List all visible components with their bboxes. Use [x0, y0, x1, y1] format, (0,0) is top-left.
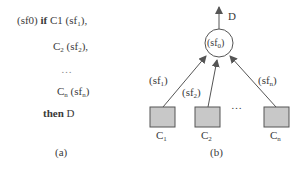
punct: )	[197, 86, 201, 98]
input-label-1: C1	[156, 130, 167, 141]
caption-b: (b)	[210, 147, 223, 158]
subscript: 2	[208, 135, 212, 143]
input-box-1	[150, 107, 175, 127]
punct: )	[221, 37, 224, 48]
punct: )	[164, 74, 168, 86]
rule-graph	[0, 0, 304, 173]
punct: )	[273, 74, 277, 86]
edge-1-arrow	[163, 56, 206, 107]
node-label: (sf0)	[207, 38, 224, 48]
subscript: n	[277, 135, 281, 143]
edge-label-1: (sf1)	[149, 75, 168, 86]
input-label-2: C2	[201, 130, 212, 141]
subscript: 1	[163, 135, 167, 143]
edge-text: (sf	[149, 74, 161, 86]
edge-text: (sf	[182, 86, 194, 98]
edge-label-n: (sfn)	[258, 75, 277, 86]
input-box-n	[264, 107, 289, 127]
edge-2-arrow	[208, 60, 217, 107]
input-label-n: Cn	[270, 130, 281, 141]
node-text: (sf	[207, 37, 218, 48]
edge-label-2: (sf2)	[182, 87, 201, 98]
inputs-ellipsis: …	[231, 100, 242, 111]
output-label: D	[228, 11, 236, 22]
edge-text: (sf	[258, 74, 270, 86]
input-box-2	[195, 107, 220, 127]
